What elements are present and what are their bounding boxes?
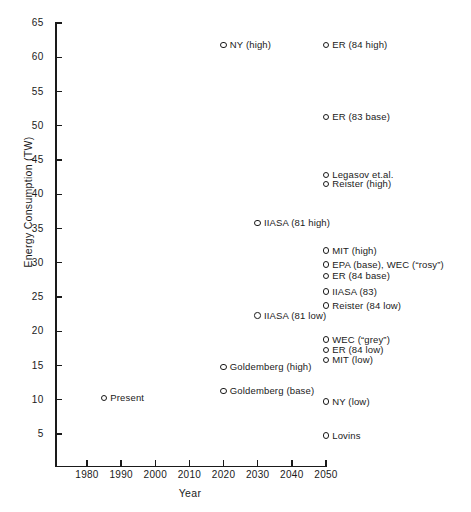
x-tick-mark: [120, 460, 121, 466]
data-point: IIASA (81 high): [254, 218, 330, 228]
data-point-label: ER (84 low): [332, 345, 383, 355]
x-tick-mark: [325, 460, 326, 466]
data-point-label: EPA (base), WEC (“rosy”): [332, 260, 444, 270]
y-tick-mark: [56, 262, 62, 263]
x-tick-label: 2050: [306, 470, 346, 480]
y-tick-mark: [56, 125, 62, 126]
open-circle-marker-icon: [323, 114, 330, 121]
data-point: NY (high): [220, 40, 271, 50]
y-tick-mark: [56, 57, 62, 58]
data-point: WEC (“grey”): [323, 335, 390, 345]
x-tick-mark: [155, 460, 156, 466]
data-point: IIASA (81 low): [254, 311, 326, 321]
y-axis-title: Energy Consumption (TW): [22, 122, 34, 282]
data-point: NY (low): [323, 397, 370, 407]
scatter-chart: 5101520253035404550556065 19801990200020…: [0, 0, 471, 512]
data-point-label: NY (high): [230, 40, 271, 50]
data-point-label: IIASA (81 low): [264, 311, 326, 321]
x-tick-mark: [223, 460, 224, 466]
y-tick-mark: [56, 399, 62, 400]
y-tick-label: 15: [16, 361, 44, 371]
open-circle-marker-icon: [254, 312, 261, 319]
y-tick-mark: [56, 365, 62, 366]
data-point-label: ER (84 high): [332, 40, 387, 50]
data-point: ER (83 base): [323, 112, 390, 122]
data-point-label: Goldemberg (base): [230, 386, 314, 396]
data-point-label: Goldemberg (high): [230, 362, 312, 372]
open-circle-marker-icon: [220, 388, 227, 395]
open-circle-marker-icon: [323, 42, 330, 49]
open-circle-marker-icon: [323, 398, 330, 405]
y-tick-label: 5: [16, 429, 44, 439]
y-tick-label: 55: [16, 87, 44, 97]
data-point-label: ER (83 base): [332, 112, 390, 122]
open-circle-marker-icon: [323, 302, 330, 309]
y-tick-mark: [56, 228, 62, 229]
open-circle-marker-icon: [323, 273, 330, 280]
x-tick-mark: [291, 460, 292, 466]
y-tick-label: 20: [16, 326, 44, 336]
data-point: Goldemberg (base): [220, 386, 314, 396]
open-circle-marker-icon: [323, 288, 330, 295]
data-point: Reister (high): [323, 179, 392, 189]
open-circle-marker-icon: [254, 220, 261, 227]
data-point-label: Reister (high): [332, 179, 391, 189]
x-tick-mark: [86, 460, 87, 466]
data-point-label: ER (84 base): [332, 271, 390, 281]
y-tick-mark: [56, 296, 62, 297]
data-point: Lovins: [323, 431, 361, 441]
open-circle-marker-icon: [220, 42, 227, 49]
open-circle-marker-icon: [323, 357, 330, 364]
data-point-label: NY (low): [332, 397, 369, 407]
x-tick-mark: [257, 460, 258, 466]
open-circle-marker-icon: [101, 395, 108, 402]
y-tick-label: 60: [16, 52, 44, 62]
data-point: EPA (base), WEC (“rosy”): [323, 260, 444, 270]
y-tick-mark: [56, 433, 62, 434]
open-circle-marker-icon: [323, 347, 330, 354]
data-point-label: MIT (low): [332, 355, 373, 365]
data-point: Present: [101, 393, 144, 403]
y-tick-label: 10: [16, 395, 44, 405]
x-axis-title: Year: [150, 487, 230, 499]
data-point: MIT (low): [323, 355, 373, 365]
y-tick-mark: [56, 194, 62, 195]
data-point: IIASA (83): [323, 287, 377, 297]
data-point: ER (84 high): [323, 40, 388, 50]
data-point-label: Reister (84 low): [332, 301, 401, 311]
data-point: ER (84 base): [323, 271, 390, 281]
y-tick-mark: [56, 22, 62, 23]
y-tick-mark: [56, 159, 62, 160]
data-point-label: IIASA (81 high): [264, 218, 330, 228]
x-tick-mark: [189, 460, 190, 466]
open-circle-marker-icon: [220, 364, 227, 371]
data-point-label: Present: [110, 393, 144, 403]
data-point: ER (84 low): [323, 345, 384, 355]
data-point-label: WEC (“grey”): [332, 335, 390, 345]
data-point-label: Lovins: [332, 431, 360, 441]
open-circle-marker-icon: [323, 261, 330, 268]
data-point-label: MIT (high): [332, 246, 377, 256]
data-point: Goldemberg (high): [220, 362, 311, 372]
open-circle-marker-icon: [323, 432, 330, 439]
data-point: MIT (high): [323, 246, 377, 256]
open-circle-marker-icon: [323, 247, 330, 254]
open-circle-marker-icon: [323, 336, 330, 343]
data-point: Reister (84 low): [323, 301, 401, 311]
data-point-label: IIASA (83): [332, 287, 377, 297]
y-tick-mark: [56, 91, 62, 92]
x-axis-line: [55, 466, 327, 468]
y-tick-mark: [56, 331, 62, 332]
y-tick-label: 25: [16, 292, 44, 302]
open-circle-marker-icon: [323, 181, 330, 188]
y-tick-label: 65: [16, 18, 44, 28]
open-circle-marker-icon: [323, 172, 330, 179]
